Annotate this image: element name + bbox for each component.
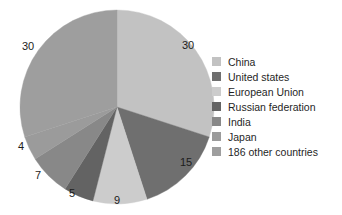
slice-value-label: 5 bbox=[69, 188, 75, 199]
legend-color-swatch-icon bbox=[212, 72, 221, 81]
slice-value-label: 15 bbox=[180, 157, 192, 168]
chart-legend: ChinaUnited statesEuropean UnionRussian … bbox=[212, 54, 342, 159]
legend-color-swatch-icon bbox=[212, 147, 221, 156]
pie-chart-figure: 3015957430 ChinaUnited statesEuropean Un… bbox=[0, 0, 342, 215]
legend-item[interactable]: Russian federation bbox=[212, 99, 342, 114]
legend-color-swatch-icon bbox=[212, 87, 221, 96]
legend-color-swatch-icon bbox=[212, 102, 221, 111]
legend-item[interactable]: United states bbox=[212, 69, 342, 84]
legend-item-label: European Union bbox=[228, 86, 304, 98]
pie-plot-area: 3015957430 bbox=[0, 0, 215, 215]
slice-value-label: 9 bbox=[114, 195, 120, 206]
legend-color-swatch-icon bbox=[212, 57, 221, 66]
slice-value-label: 30 bbox=[22, 41, 34, 52]
legend-item[interactable]: Japan bbox=[212, 129, 342, 144]
legend-item-label: China bbox=[228, 56, 255, 68]
legend-item[interactable]: European Union bbox=[212, 84, 342, 99]
legend-item[interactable]: India bbox=[212, 114, 342, 129]
legend-color-swatch-icon bbox=[212, 132, 221, 141]
legend-item-label: United states bbox=[228, 71, 289, 83]
legend-item[interactable]: 186 other countries bbox=[212, 144, 342, 159]
slice-value-label: 4 bbox=[18, 141, 24, 152]
slice-value-label: 30 bbox=[182, 40, 194, 51]
legend-color-swatch-icon bbox=[212, 117, 221, 126]
legend-item-label: India bbox=[228, 116, 251, 128]
legend-item-label: 186 other countries bbox=[228, 146, 318, 158]
legend-item-label: Russian federation bbox=[228, 101, 316, 113]
slice-value-label: 7 bbox=[35, 170, 41, 181]
legend-item-label: Japan bbox=[228, 131, 257, 143]
pie-chart-svg bbox=[0, 0, 215, 215]
legend-item[interactable]: China bbox=[212, 54, 342, 69]
